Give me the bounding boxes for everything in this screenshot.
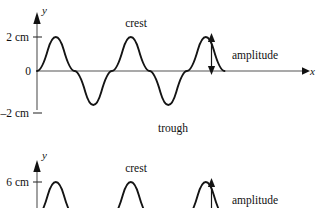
- panel-2-crest-label: crest: [125, 162, 148, 174]
- panel-1-origin-label: 0: [25, 65, 31, 77]
- panel-1-y-axis-label: y: [41, 4, 47, 16]
- panel-1-tick-bottom-label: –2 cm: [0, 107, 29, 119]
- y-axis-arrow-icon: [33, 12, 40, 24]
- panel-2-wave-curve: [37, 182, 225, 208]
- panel-2-tick-top-label: 6 cm: [6, 176, 29, 188]
- panel-1-y-axis: [33, 12, 40, 110]
- panel-2-y-axis-arrow-icon: [33, 160, 40, 172]
- amplitude-arrow-up-icon: [208, 33, 215, 42]
- panel-2-chart: y 6 cm crest amplitude: [6, 149, 278, 208]
- panel-1-chart: y x 2 cm –2 cm 0 crest trough amplitude: [0, 4, 315, 135]
- panel-1-tick-top-label: 2 cm: [6, 31, 29, 43]
- panel-1-x-axis-label: x: [309, 65, 315, 77]
- panel-1-amplitude-label: amplitude: [232, 49, 278, 62]
- wave-amplitude-figure: y x 2 cm –2 cm 0 crest trough amplitude: [0, 0, 320, 208]
- x-axis-arrow-icon: [302, 67, 310, 74]
- panel-1-crest-label: crest: [125, 17, 148, 29]
- panel-1-trough-label: trough: [158, 122, 188, 135]
- panel-2-amplitude-arrow-up-icon: [208, 178, 215, 187]
- figure-svg: y x 2 cm –2 cm 0 crest trough amplitude: [0, 0, 320, 208]
- panel-2-y-axis-label: y: [41, 149, 47, 161]
- panel-2-y-axis: [33, 160, 40, 208]
- panel-2-amplitude-label: amplitude: [232, 194, 278, 207]
